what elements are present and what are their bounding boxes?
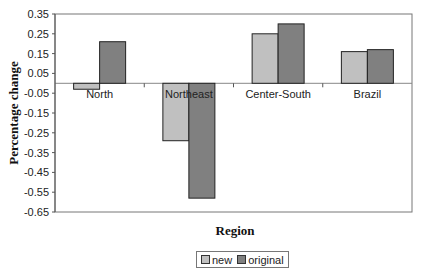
legend-swatch-original	[237, 255, 246, 264]
y-tick-label: -0.05	[24, 87, 49, 99]
bar-new-center-south	[252, 34, 278, 84]
legend-label-new: new	[212, 254, 232, 266]
y-tick-label: -0.15	[24, 107, 49, 119]
legend-item-new: new	[201, 254, 232, 266]
y-tick-label: -0.45	[24, 166, 49, 178]
x-category-label: North	[86, 88, 113, 100]
y-tick-label: 0.35	[28, 8, 49, 20]
y-axis-title: Percentage change	[6, 61, 21, 165]
y-tick-label: -0.35	[24, 147, 49, 159]
bar-new-brazil	[341, 52, 367, 84]
legend-label-original: original	[248, 254, 283, 266]
bar-chart: 0.350.250.150.05-0.05-0.15-0.25-0.35-0.4…	[0, 0, 421, 278]
legend-swatch-new	[201, 255, 210, 264]
x-axis-title: Region	[216, 223, 256, 238]
legend-item-original: original	[237, 254, 283, 266]
y-tick-label: 0.25	[28, 28, 49, 40]
x-category-label: Northeast	[165, 88, 213, 100]
x-category-label: Brazil	[354, 88, 382, 100]
bar-original-northeast	[189, 83, 215, 198]
y-tick-label: -0.55	[24, 186, 49, 198]
bar-original-brazil	[367, 50, 393, 84]
y-axis: 0.350.250.150.05-0.05-0.15-0.25-0.35-0.4…	[24, 8, 55, 218]
bar-original-north	[100, 42, 126, 84]
bar-original-center-south	[278, 24, 304, 83]
y-tick-label: -0.25	[24, 127, 49, 139]
y-tick-label: -0.65	[24, 206, 49, 218]
y-tick-label: 0.05	[28, 67, 49, 79]
x-category-label: Center-South	[245, 88, 310, 100]
legend: new original	[196, 251, 289, 268]
y-tick-label: 0.15	[28, 48, 49, 60]
